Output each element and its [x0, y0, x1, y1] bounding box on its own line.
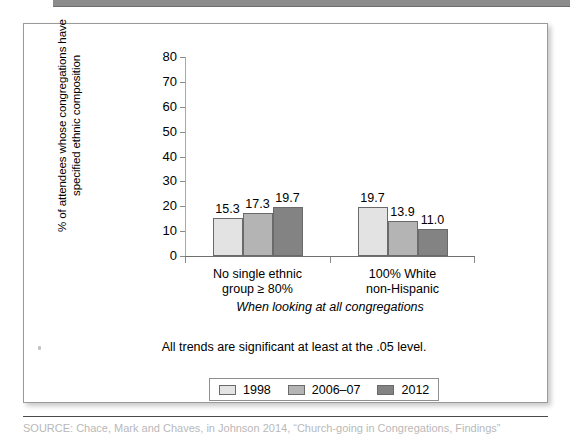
x-category-label-line: non-Hispanic — [323, 282, 483, 297]
bar — [243, 213, 273, 256]
figure-frame: % of attendees whose congregations have … — [23, 23, 548, 403]
y-tick-mark — [180, 107, 185, 108]
y-tick-label: 70 — [163, 74, 177, 89]
y-tick-label: 60 — [163, 99, 177, 114]
chart-legend: 19982006–072012 — [209, 378, 439, 401]
y-tick-label: 20 — [163, 198, 177, 213]
x-category-label-line: group ≥ 80% — [178, 282, 338, 297]
legend-label: 2012 — [401, 383, 429, 397]
y-tick-label: 0 — [170, 248, 177, 263]
legend-entry: 2012 — [377, 383, 429, 397]
y-tick-mark — [180, 157, 185, 158]
y-tick-mark — [180, 206, 185, 207]
x-axis-title: When looking at all congregations — [185, 300, 475, 315]
caption-divider — [23, 416, 548, 417]
legend-label: 1998 — [243, 383, 271, 397]
x-category-label: 100% Whitenon-Hispanic — [323, 267, 483, 297]
bar — [273, 207, 303, 256]
y-tick-label: 30 — [163, 173, 177, 188]
y-tick-label: 80 — [163, 49, 177, 64]
y-axis-title: % of attendees whose congregations have … — [56, 18, 83, 233]
legend-entry: 2006–07 — [288, 383, 361, 397]
x-tick-mark — [330, 257, 331, 263]
x-category-label-line: 100% White — [323, 267, 483, 282]
y-tick-mark — [180, 231, 185, 232]
legend-swatch — [219, 385, 236, 395]
x-category-label: No single ethnicgroup ≥ 80% — [178, 267, 338, 297]
legend-swatch — [288, 385, 305, 395]
y-axis-line — [185, 57, 186, 256]
y-tick-mark — [180, 57, 185, 58]
legend-entry: 1998 — [219, 383, 271, 397]
legend-label: 2006–07 — [312, 383, 361, 397]
x-category-label-line: No single ethnic — [178, 267, 338, 282]
y-tick-label: 40 — [163, 149, 177, 164]
bar — [213, 218, 243, 256]
significance-note: All trends are significant at least at t… — [84, 340, 504, 354]
bar-value-label: 19.7 — [353, 191, 393, 205]
source-caption: SOURCE: Chace, Mark and Chaves, in Johns… — [23, 422, 548, 434]
bar-value-label: 11.0 — [413, 213, 453, 227]
y-tick-label: 10 — [163, 223, 177, 238]
y-tick-mark — [180, 132, 185, 133]
y-tick-label: 50 — [163, 124, 177, 139]
legend-swatch — [377, 385, 394, 395]
bar-value-label: 19.7 — [268, 191, 308, 205]
plot-area: 01020304050607080 15.317.319.719.713.911… — [185, 57, 475, 256]
bar-chart: % of attendees whose congregations have … — [24, 24, 547, 402]
x-tick-mark — [185, 257, 186, 263]
y-tick-mark — [180, 181, 185, 182]
y-tick-mark — [180, 82, 185, 83]
bar — [418, 229, 448, 256]
window-title-bar — [53, 0, 570, 7]
x-tick-mark — [474, 257, 475, 263]
